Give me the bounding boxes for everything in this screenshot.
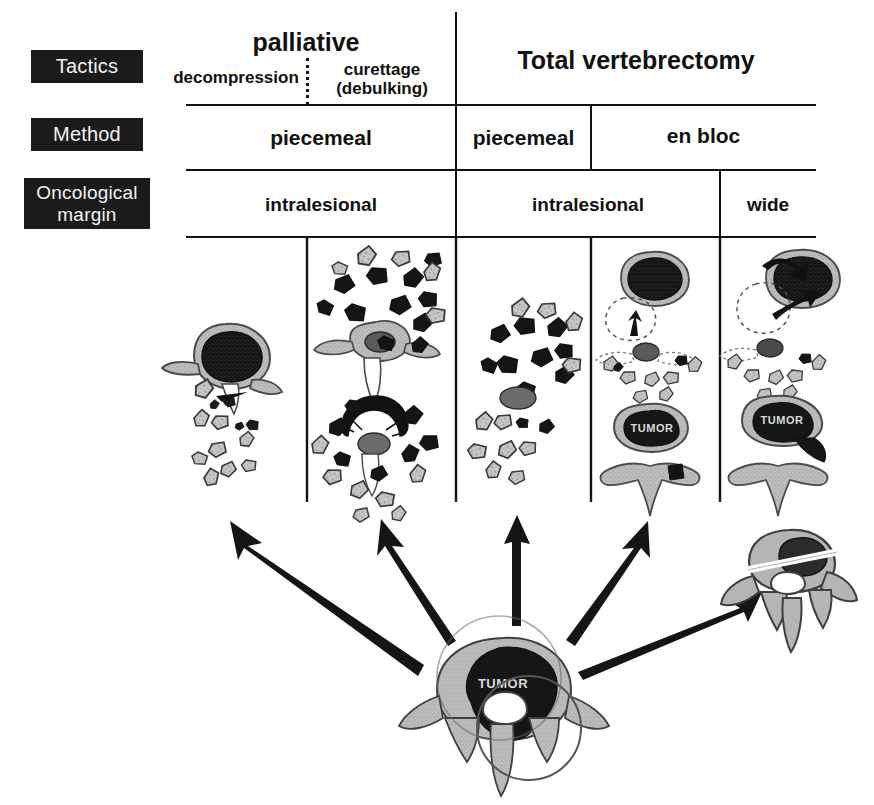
row-label-margin-line2: margin xyxy=(57,204,116,225)
margin-total-wide: wide xyxy=(720,194,816,215)
row-label-method-text: Method xyxy=(53,123,121,145)
row-label-method: Method xyxy=(31,118,143,151)
illustration-piecemeal-total xyxy=(465,297,586,486)
header-total-vertebrectomy: Total vertebrectomy xyxy=(456,46,816,74)
illustration-enbloc-intralesional: TUMOR xyxy=(596,252,705,516)
svg-text:TUMOR: TUMOR xyxy=(761,414,804,426)
row-label-tactics-text: Tactics xyxy=(56,55,119,77)
illustration-decompression xyxy=(162,324,282,489)
method-palliative-piecemeal: piecemeal xyxy=(186,126,456,150)
row-label-oncological-margin: Oncological margin xyxy=(24,178,150,229)
header-curettage-line2: (debulking) xyxy=(312,79,452,98)
rule-palliative-split xyxy=(306,58,309,105)
header-curettage: curettage (debulking) xyxy=(312,60,452,98)
rule-margin-bottom xyxy=(186,236,816,238)
header-decompression: decompression xyxy=(166,68,306,87)
wide-specimen xyxy=(721,530,857,652)
illustration-curettage xyxy=(308,245,448,523)
method-total-enbloc: en bloc xyxy=(591,124,816,148)
rule-tactics-bottom xyxy=(186,104,816,106)
source-vertebra: TUMOR xyxy=(399,616,609,796)
row-label-margin-line1: Oncological xyxy=(36,182,137,203)
margin-total-intralesional: intralesional xyxy=(456,194,720,215)
row-label-tactics: Tactics xyxy=(31,50,143,83)
header-curettage-line1: curettage xyxy=(312,60,452,79)
illustration-enbloc-wide: TUMOR xyxy=(720,250,840,516)
svg-text:TUMOR: TUMOR xyxy=(631,422,674,434)
method-total-piecemeal: piecemeal xyxy=(456,126,591,150)
figure-canvas: TUMOR xyxy=(0,0,874,805)
rule-method-bottom xyxy=(186,169,816,171)
margin-palliative-intralesional: intralesional xyxy=(186,194,456,215)
header-palliative: palliative xyxy=(186,28,426,56)
